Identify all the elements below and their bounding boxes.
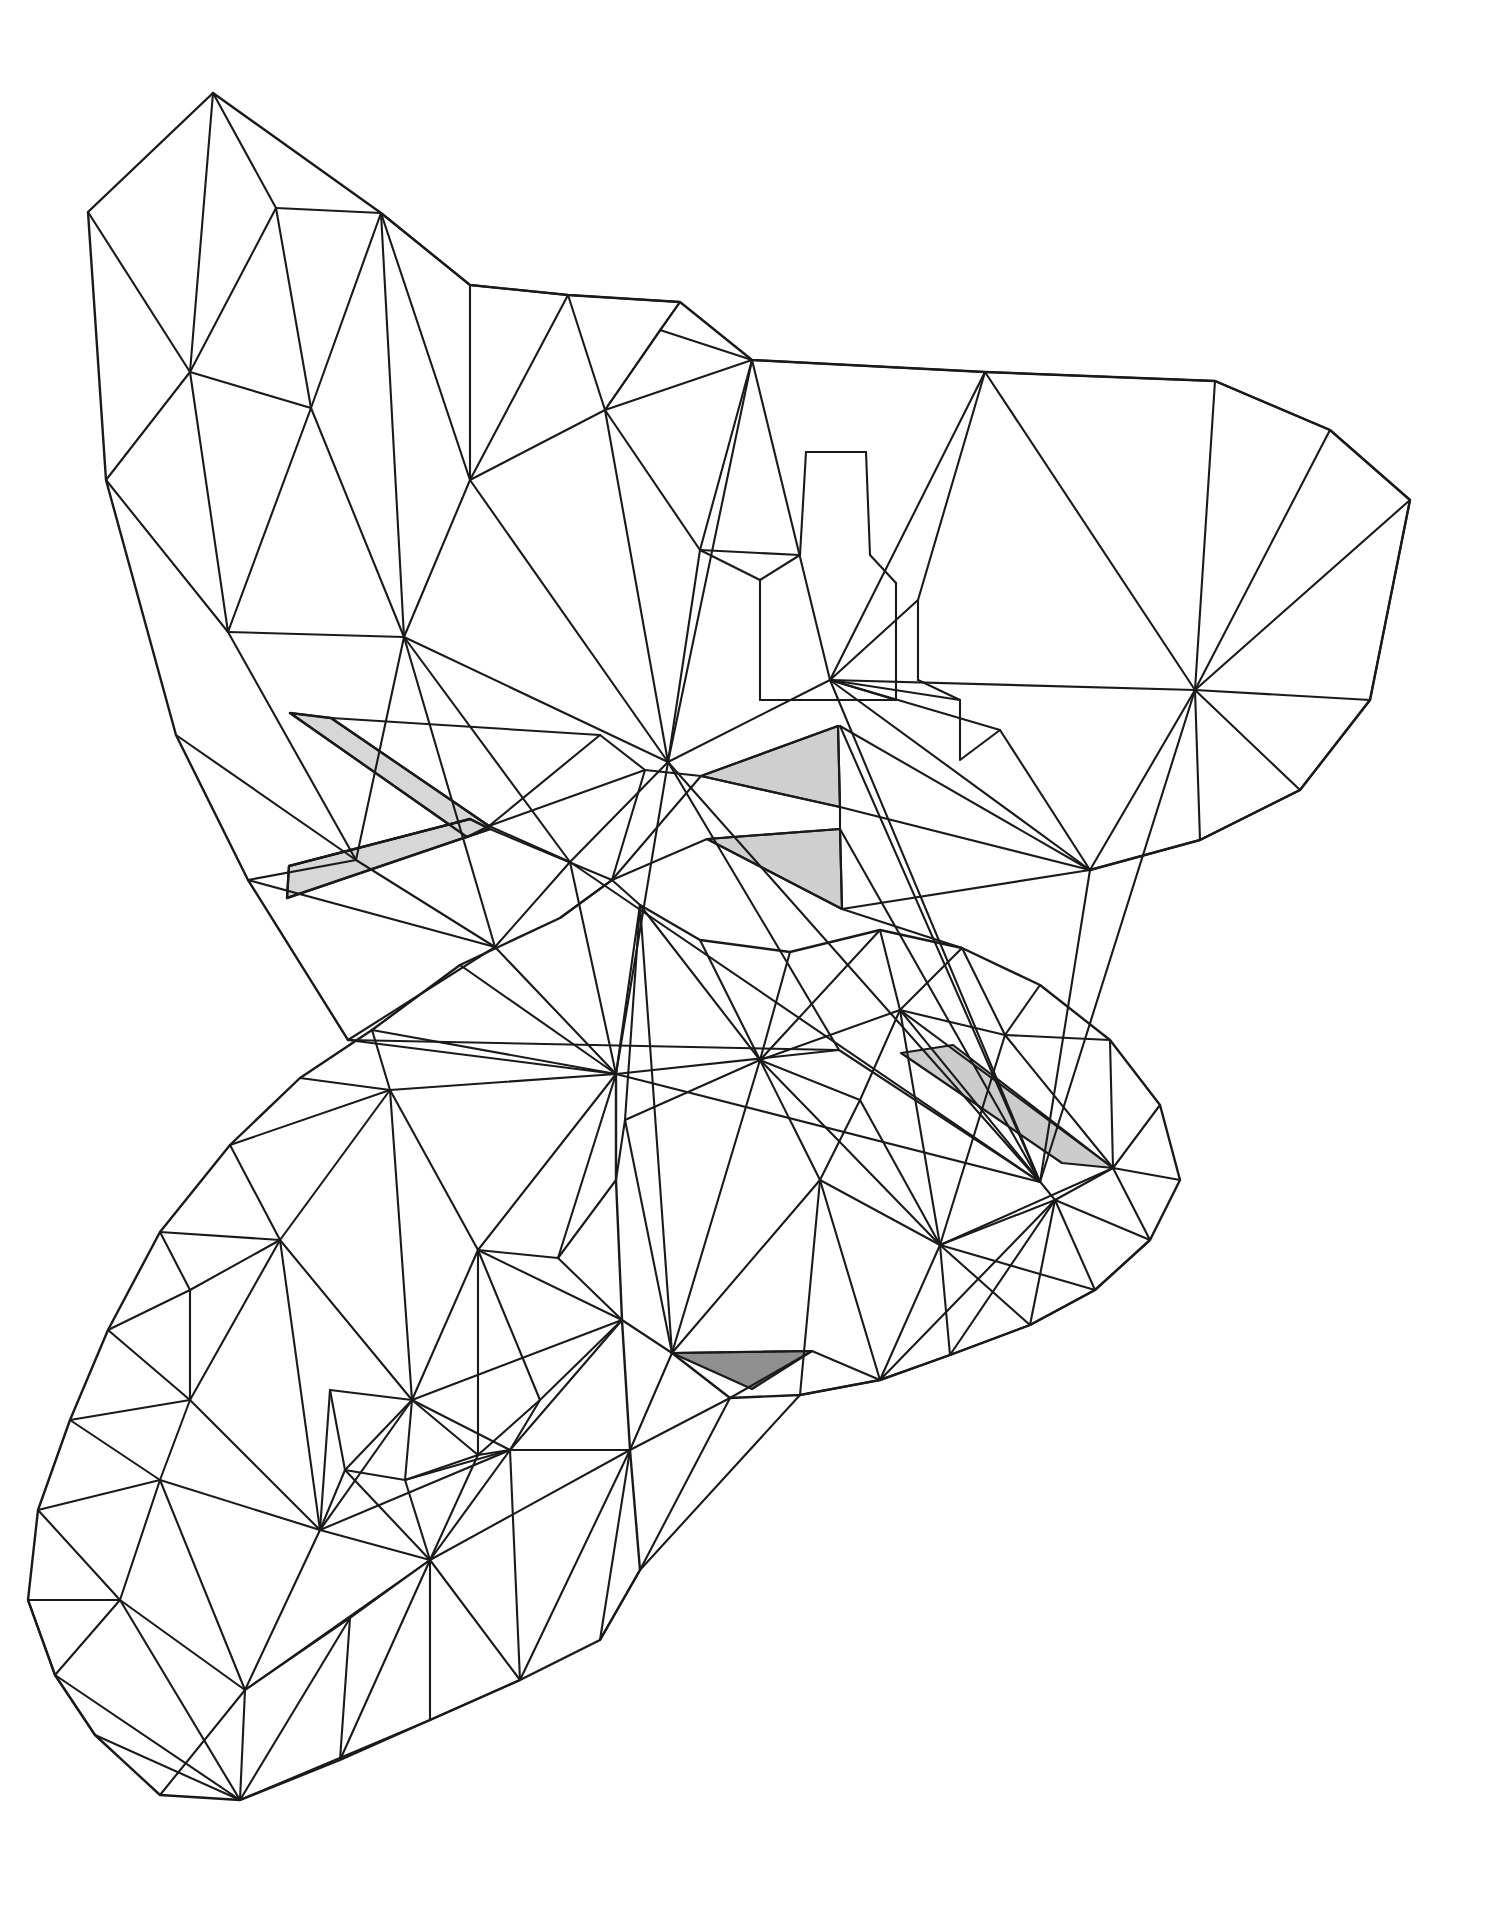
butterfly-drawing bbox=[0, 0, 1486, 1927]
artboard: Low-Poly Butterfly Line Drawing bbox=[0, 0, 1486, 1927]
shaded-face-body-lower bbox=[707, 829, 842, 909]
shaded-face-body-upper bbox=[701, 726, 840, 807]
upper-left-wing bbox=[88, 93, 1215, 1182]
upper-wing-notch-detail bbox=[760, 452, 1000, 760]
shaded-face-antenna-upper bbox=[290, 713, 489, 837]
